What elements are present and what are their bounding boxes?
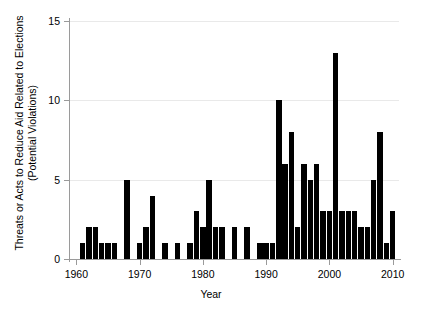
bar xyxy=(346,211,351,259)
bar xyxy=(175,243,180,259)
bar xyxy=(105,243,110,259)
bar xyxy=(371,180,376,259)
bar xyxy=(377,132,382,259)
bar xyxy=(384,243,389,259)
bar xyxy=(194,211,199,259)
x-axis-tick xyxy=(266,259,267,265)
y-axis-tick xyxy=(64,259,70,260)
x-axis-tick-label: 2010 xyxy=(381,268,404,280)
x-axis-tick-label: 1960 xyxy=(65,268,88,280)
bar xyxy=(93,227,98,259)
y-axis-title: Threats or Acts to Reduce Aid Related to… xyxy=(0,0,52,265)
bar xyxy=(206,180,211,259)
bar xyxy=(270,243,275,259)
bar xyxy=(282,164,287,259)
bar xyxy=(308,180,313,259)
bar xyxy=(289,132,294,259)
bar xyxy=(86,227,91,259)
x-axis-line xyxy=(67,259,401,260)
bar xyxy=(276,100,281,259)
bar xyxy=(390,211,395,259)
bar xyxy=(314,164,319,259)
x-axis-tick xyxy=(76,259,77,265)
y-axis-tick-label: 10 xyxy=(40,94,60,106)
x-axis-tick xyxy=(203,259,204,265)
bar xyxy=(327,211,332,259)
bar xyxy=(352,211,357,259)
bar xyxy=(187,243,192,259)
bar xyxy=(200,227,205,259)
bar-series xyxy=(70,21,399,259)
bar xyxy=(257,243,262,259)
bar xyxy=(365,227,370,259)
y-axis-title-line1: Threats or Acts to Reduce Aid Related to… xyxy=(13,15,25,250)
bar xyxy=(232,227,237,259)
bar xyxy=(150,196,155,259)
bar xyxy=(143,227,148,259)
bar-chart: Threats or Acts to Reduce Aid Related to… xyxy=(0,0,422,313)
x-axis-tick-label: 1980 xyxy=(191,268,214,280)
bar xyxy=(244,227,249,259)
y-axis-tick-label: 15 xyxy=(40,15,60,27)
bar xyxy=(137,243,142,259)
bar xyxy=(263,243,268,259)
bar xyxy=(295,227,300,259)
bar xyxy=(358,227,363,259)
x-axis-title: Year xyxy=(0,288,422,300)
bar xyxy=(124,180,129,259)
y-axis-title-line2: (Potential Violations) xyxy=(26,15,39,250)
bar xyxy=(301,164,306,259)
x-axis-tick xyxy=(329,259,330,265)
bar xyxy=(112,243,117,259)
bar xyxy=(219,227,224,259)
bar xyxy=(162,243,167,259)
x-axis-tick-label: 1970 xyxy=(128,268,151,280)
x-axis-tick xyxy=(140,259,141,265)
y-axis-tick-label: 0 xyxy=(40,253,60,265)
bar xyxy=(333,53,338,259)
x-axis-tick xyxy=(393,259,394,265)
bar xyxy=(213,227,218,259)
bar xyxy=(99,243,104,259)
x-axis-tick-label: 1990 xyxy=(254,268,277,280)
y-axis-tick-label: 5 xyxy=(40,174,60,186)
bar xyxy=(320,211,325,259)
bar xyxy=(80,243,85,259)
bar xyxy=(339,211,344,259)
x-axis-tick-label: 2000 xyxy=(318,268,341,280)
